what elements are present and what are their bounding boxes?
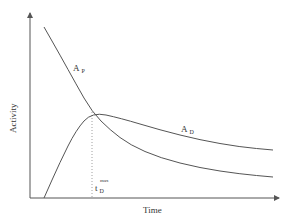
label-a-d: AD xyxy=(181,124,194,134)
label-t-sup: max xyxy=(100,178,109,183)
label-a-d-main: A xyxy=(181,124,188,134)
y-axis-label: Activity xyxy=(8,104,18,134)
label-a-p: AP xyxy=(73,63,85,73)
curve-a-d xyxy=(44,114,273,198)
label-t-d-max: tDmax xyxy=(95,183,104,193)
label-a-p-main: A xyxy=(73,63,80,73)
chart-plot xyxy=(0,0,293,223)
label-t-sub: D xyxy=(100,188,104,194)
curve-a-p xyxy=(44,27,273,177)
x-axis-label: Time xyxy=(143,205,162,215)
label-a-d-sub: D xyxy=(190,129,194,135)
label-a-p-sub: P xyxy=(82,68,85,74)
label-t-main: t xyxy=(95,183,98,193)
